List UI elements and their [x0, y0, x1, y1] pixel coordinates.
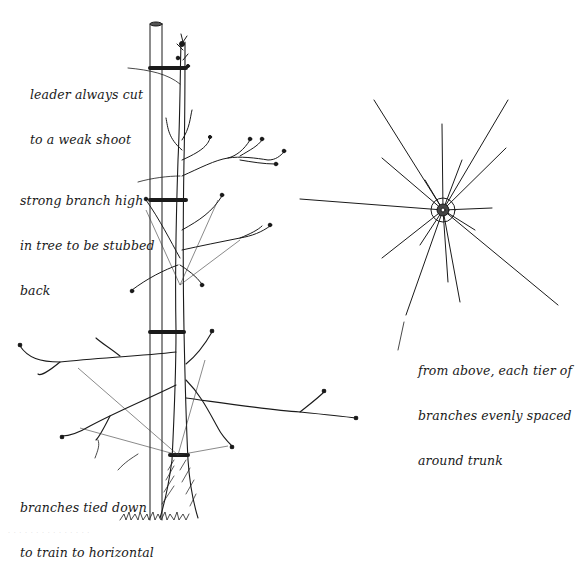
top-view-star [300, 100, 558, 315]
lower-branches [18, 329, 358, 449]
label-tied-down: branches tied down to train to horizonta… [20, 470, 154, 561]
label-strong-branch-line3: back [20, 283, 155, 298]
label-leader-line2: to a weak shoot [30, 132, 143, 147]
top-view-pointer [398, 322, 404, 350]
label-leader: leader always cut to a weak shoot [30, 57, 143, 177]
label-strong-branch-line1: strong branch high [20, 193, 155, 208]
label-leader-line1: leader always cut [30, 87, 143, 102]
label-from-above-line3: around trunk [418, 453, 572, 468]
leader-shoot [176, 34, 189, 68]
trunk [160, 42, 198, 518]
label-from-above-line2: branches evenly spaced [418, 408, 572, 423]
watermark: · · · · · · · · · · · · · · · [8, 529, 90, 535]
label-tied-down-line2: to train to horizontal [20, 545, 154, 560]
label-from-above: from above, each tier of branches evenly… [418, 333, 572, 498]
label-from-above-line1: from above, each tier of [418, 363, 572, 378]
label-tied-down-line1: branches tied down [20, 500, 154, 515]
label-strong-branch: strong branch high in tree to be stubbed… [20, 163, 155, 328]
label-strong-branch-line2: in tree to be stubbed [20, 238, 155, 253]
